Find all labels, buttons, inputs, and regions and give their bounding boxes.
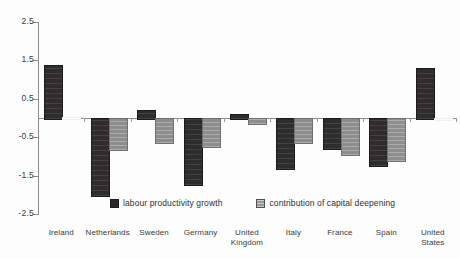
y-axis-tick-label-wrap: -1.5 xyxy=(0,176,38,177)
bar-capital-deepening xyxy=(109,118,128,151)
bar-capital-deepening xyxy=(202,118,221,148)
hatched-square-icon xyxy=(256,199,265,208)
y-axis-tick-label: 2.5 xyxy=(4,17,34,26)
y-axis-tick-label-wrap: -2.5 xyxy=(0,214,38,215)
bar-capital-deepening xyxy=(155,118,174,144)
bar-group xyxy=(89,22,127,214)
y-axis-tick-label-wrap: 0.5 xyxy=(0,99,38,100)
x-axis-category-label: Ireland xyxy=(38,228,84,238)
bar-group xyxy=(274,22,312,214)
bar-capital-deepening xyxy=(294,118,313,144)
bar-productivity xyxy=(44,65,63,120)
legend-item[interactable]: labour productivity growth xyxy=(110,198,222,208)
x-axis-category-label: Netherlands xyxy=(84,228,130,238)
dark-square-icon xyxy=(110,199,119,208)
bar-capital-deepening xyxy=(62,117,81,120)
bar-group xyxy=(321,22,359,214)
bar-group xyxy=(414,22,452,214)
bar-capital-deepening xyxy=(387,118,406,162)
x-axis-category-label: United Kingdom xyxy=(224,228,270,247)
y-axis-tick-label-wrap: 2.5 xyxy=(0,22,38,23)
bar-group xyxy=(367,22,405,214)
bar-productivity xyxy=(184,118,203,186)
bar-group xyxy=(42,22,80,214)
x-axis-category-label: Italy xyxy=(270,228,316,238)
x-axis-category-label: Germany xyxy=(177,228,223,238)
y-axis-tick-label: 0.5 xyxy=(4,94,34,103)
bar-productivity xyxy=(91,118,110,197)
bar-productivity xyxy=(230,114,249,120)
bar-group xyxy=(228,22,266,214)
legend-item-label: labour productivity growth xyxy=(123,198,222,208)
plot-area xyxy=(38,22,456,214)
y-axis-tick-label-wrap: -0.5 xyxy=(0,137,38,138)
x-axis-category-label: Spain xyxy=(363,228,409,238)
x-axis-category-label: United States xyxy=(410,228,456,247)
y-axis-tick-label: -0.5 xyxy=(4,132,34,141)
x-axis-category-label: Sweden xyxy=(131,228,177,238)
y-axis-tick-label-wrap: 1.5 xyxy=(0,60,38,61)
x-axis-tick xyxy=(456,118,457,122)
bar-capital-deepening xyxy=(248,118,267,125)
bar-productivity xyxy=(416,68,435,120)
bar-productivity xyxy=(276,118,295,170)
bar-productivity xyxy=(137,110,156,120)
bar-capital-deepening xyxy=(434,118,453,121)
bar-group xyxy=(182,22,220,214)
legend-item[interactable]: contribution of capital deepening xyxy=(256,198,395,208)
bar-chart: 2.51.50.5-0.5-1.5-2.5 IrelandNetherlands… xyxy=(0,0,460,258)
y-axis-tick-label: -1.5 xyxy=(4,171,34,180)
legend-item-label: contribution of capital deepening xyxy=(269,198,395,208)
y-axis-tick-label: 1.5 xyxy=(4,55,34,64)
y-axis-tick-label: -2.5 xyxy=(4,209,34,218)
bar-productivity xyxy=(323,118,342,150)
bar-productivity xyxy=(369,118,388,167)
x-axis-category-label: France xyxy=(317,228,363,238)
bar-capital-deepening xyxy=(341,118,360,156)
bar-group xyxy=(135,22,173,214)
chart-legend: labour productivity growthcontribution o… xyxy=(110,198,395,208)
